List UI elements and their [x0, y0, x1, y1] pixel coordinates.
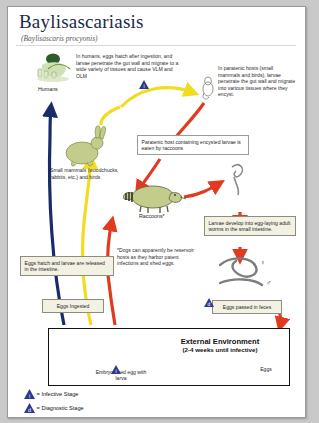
svg-text:d: d — [28, 407, 31, 413]
eggs-hatch-callout: Eggs hatch and larvae are released in th… — [20, 256, 114, 276]
diagnostic-triangle-icon: d — [24, 403, 35, 414]
external-environment-title: External Environment — [158, 337, 282, 346]
page-title: Baylisascariasis — [19, 11, 144, 33]
svg-text:i: i — [29, 393, 30, 399]
infective-triangle-icon: i — [24, 389, 35, 400]
humans-infection-text: In humans, eggs hatch after ingestion, a… — [76, 53, 181, 79]
infective-triangle-icon-humans: i — [139, 75, 148, 83]
paratenic-host-text: In paratenic hosts (small mammals and bi… — [218, 65, 296, 98]
diagram-sheet: Baylisascariasis (Baylisascaris procyoni… — [7, 6, 306, 418]
legend-infective: i = Infective Stage — [24, 389, 78, 400]
adult-worms-illustration — [220, 258, 262, 285]
svg-text:d: d — [208, 301, 211, 307]
humans-label: Humans — [38, 86, 58, 92]
title-divider — [16, 45, 296, 46]
bird-illustration — [203, 77, 213, 99]
raccoon-illustration — [123, 186, 186, 213]
rabbit-illustration — [66, 126, 106, 166]
eggs-passed-callout: Eggs passed in feces — [212, 300, 282, 314]
infective-triangle-icon-external: i — [111, 360, 120, 368]
paratenic-eaten-callout: Paratenic host containing encysted larva… — [137, 135, 249, 155]
screenshot-root: Baylisascariasis (Baylisascaris procyoni… — [0, 0, 319, 423]
larva-illustration — [232, 165, 242, 195]
male-symbol: ♂ — [266, 279, 271, 286]
scientific-name: (Baylisascaris procyonis) — [21, 34, 98, 43]
eggs-label: Eggs — [248, 366, 284, 372]
external-environment-subtitle: (2-4 weeks until infective) — [158, 346, 282, 353]
svg-text:i: i — [143, 83, 144, 89]
embryonated-egg-label: Embryonated egg with larva — [92, 369, 150, 382]
legend-infective-label: = Infective Stage — [37, 391, 79, 397]
legend-diagnostic: d = Diagnostic Stage — [24, 403, 84, 414]
dogs-reservoir-note: *Dogs can apparently be reservoir hosts … — [117, 247, 201, 267]
legend-diagnostic-label: = Diagnostic Stage — [37, 405, 84, 411]
female-symbol: ♀ — [260, 259, 265, 266]
diagnostic-triangle-icon-feces: d — [204, 293, 213, 301]
raccoons-label: Raccoons* — [139, 213, 165, 219]
larvae-develop-callout: Larvae develop into egg-laying adult wor… — [204, 216, 296, 236]
humans-illustration — [37, 54, 70, 83]
small-mammals-label: Small mammals (woodchucks, rabbits, etc.… — [50, 167, 120, 180]
svg-text:i: i — [115, 368, 116, 374]
eggs-ingested-callout: Eggs Ingested — [42, 299, 104, 313]
